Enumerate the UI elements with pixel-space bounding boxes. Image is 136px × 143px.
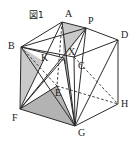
vertex-label-a: A [65,9,72,19]
vertex-label-x: X [68,47,75,57]
vertex-label-g: G [78,128,85,138]
cube-diagram-svg [0,0,136,143]
edge-C-D [74,40,118,57]
diagonal-P-G [75,28,86,126]
vertex-label-p: P [88,16,94,26]
vertex-label-k: K [41,53,48,63]
edge-G-H [75,104,118,126]
vertex-label-e: E [55,88,61,98]
vertex-label-b: B [8,41,15,51]
edge-P-D [86,28,118,40]
diagonal-D-G [75,40,118,126]
vertex-label-f: F [12,113,18,123]
figure-number-label: 図1 [29,11,44,20]
vertex-label-c: C [78,61,85,71]
vertex-label-h: H [121,99,128,109]
vertex-label-d: D [121,30,128,40]
geometry-figure: 図1 APDBCXKEHFG [0,0,136,143]
